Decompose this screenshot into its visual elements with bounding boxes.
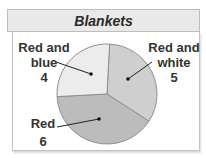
- label-text: blue: [14, 55, 74, 70]
- leader-dot: [126, 77, 130, 81]
- label-value: 4: [14, 70, 74, 85]
- label-value: 6: [18, 134, 68, 149]
- label-text: Red and: [144, 40, 204, 55]
- label-red-and-blue: Red and blue 4: [14, 40, 74, 85]
- label-text: white: [144, 55, 204, 70]
- label-text: Red and: [14, 40, 74, 55]
- label-red: Red 6: [18, 116, 68, 149]
- label-value: 5: [144, 70, 204, 85]
- label-red-and-white: Red and white 5: [144, 40, 204, 85]
- leader-dot: [89, 72, 93, 76]
- leader-dot: [97, 117, 101, 121]
- label-text: Red: [18, 116, 68, 131]
